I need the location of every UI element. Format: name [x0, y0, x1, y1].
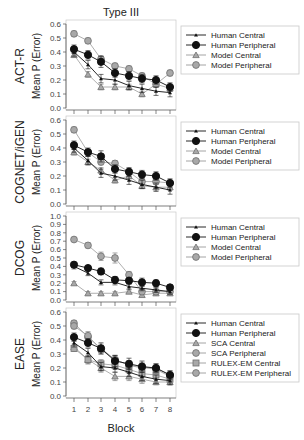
- chart-title: Type III: [103, 6, 139, 18]
- y-tick-label: 1.0: [50, 212, 62, 221]
- data-point-marker: [84, 149, 91, 156]
- x-tick-label: 2: [86, 405, 91, 414]
- series-human-peripheral: [70, 261, 173, 291]
- data-point-marker: [125, 72, 132, 79]
- row-label: ACT-R: [13, 48, 27, 84]
- legend-label: Human Peripheral: [211, 329, 276, 338]
- data-point-marker: [71, 236, 78, 243]
- legend: Human CentralHuman PeripheralSCA Central…: [181, 314, 299, 382]
- x-tick-label: 6: [140, 405, 145, 414]
- data-point-marker: [125, 360, 132, 367]
- x-tick-label: 8: [168, 405, 173, 414]
- y-tick-label: 0.4: [50, 48, 62, 57]
- panel-cognet-igen: 0.00.10.20.30.40.50.6Mean P (Error)COGNE…: [13, 116, 299, 210]
- data-point-marker: [70, 142, 77, 149]
- series-human-peripheral: [70, 333, 173, 379]
- y-tick-label: 0.0: [50, 200, 62, 209]
- legend-label: Human Central: [211, 223, 265, 232]
- y-axis-label: Mean P (Error): [31, 225, 42, 291]
- y-tick-label: 0.4: [50, 336, 62, 345]
- data-point-marker: [152, 364, 159, 371]
- y-tick-label: 0.6: [50, 308, 62, 317]
- data-point-marker: [84, 264, 91, 271]
- data-point-marker: [71, 323, 78, 330]
- y-tick-label: 0.1: [50, 287, 62, 296]
- y-tick-label: 0.1: [50, 378, 62, 387]
- data-point-marker: [98, 253, 105, 260]
- legend: Human CentralHuman PeripheralModel Centr…: [181, 218, 299, 266]
- y-tick-label: 0.6: [50, 116, 62, 125]
- y-axis-label: Mean P (Error): [31, 129, 42, 195]
- data-point-marker: [152, 280, 159, 287]
- data-point-marker: [112, 255, 119, 262]
- data-point-marker: [152, 172, 159, 179]
- data-point-marker: [85, 71, 91, 77]
- legend-marker: [192, 233, 199, 240]
- y-tick-label: 0.7: [50, 237, 62, 246]
- legend-label: RULEX-EM Peripheral: [211, 369, 291, 378]
- legend: Human CentralHuman PeripheralModel Centr…: [181, 26, 299, 74]
- x-tick-label: 5: [127, 405, 132, 414]
- data-point-marker: [111, 69, 118, 76]
- legend-label: Model Peripheral: [211, 61, 272, 70]
- legend-label: Model Peripheral: [211, 253, 272, 262]
- legend-label: Human Central: [211, 127, 265, 136]
- data-point-marker: [125, 168, 132, 175]
- data-point-marker: [85, 37, 92, 44]
- data-point-marker: [138, 363, 145, 370]
- row-label: EASE: [13, 338, 27, 370]
- x-tick-label: 7: [154, 405, 159, 414]
- y-tick-label: 0.0: [50, 392, 62, 401]
- legend-marker: [192, 329, 199, 336]
- data-point-marker: [166, 371, 173, 378]
- data-point-marker: [126, 289, 132, 295]
- data-point-marker: [138, 171, 145, 178]
- y-tick-label: 0.0: [50, 296, 62, 305]
- legend-label: Human Central: [211, 319, 265, 328]
- legend: Human CentralHuman PeripheralModel Centr…: [181, 122, 299, 170]
- legend-marker: [193, 360, 199, 366]
- legend-marker: [193, 62, 200, 69]
- y-tick-label: 0.1: [50, 186, 62, 195]
- y-tick-label: 0.3: [50, 62, 62, 71]
- data-point-marker: [166, 284, 173, 291]
- y-tick-label: 0.2: [50, 76, 62, 85]
- data-point-marker: [70, 261, 77, 268]
- data-point-marker: [167, 70, 174, 77]
- y-tick-label: 0.2: [50, 364, 62, 373]
- y-tick-label: 0.3: [50, 158, 62, 167]
- data-point-marker: [112, 63, 119, 70]
- data-point-marker: [84, 339, 91, 346]
- data-point-marker: [111, 165, 118, 172]
- data-point-marker: [138, 279, 145, 286]
- data-point-marker: [166, 179, 173, 186]
- y-tick-label: 0.2: [50, 279, 62, 288]
- x-axis-label: Block: [108, 422, 135, 434]
- series-human-peripheral: [70, 45, 173, 91]
- y-tick-label: 0.5: [50, 130, 62, 139]
- data-point-marker: [111, 357, 118, 364]
- row-label: DCOG: [13, 240, 27, 276]
- y-tick-label: 0.2: [50, 172, 62, 181]
- legend-label: RULEX-EM Central: [211, 359, 281, 368]
- y-tick-label: 0.3: [50, 350, 62, 359]
- legend-marker: [193, 370, 200, 377]
- data-point-marker: [126, 65, 133, 72]
- y-tick-label: 0.4: [50, 262, 62, 271]
- x-tick-label: 4: [113, 405, 118, 414]
- y-tick-label: 0.1: [50, 90, 62, 99]
- y-tick-label: 0.4: [50, 144, 62, 153]
- legend-marker: [192, 137, 199, 144]
- data-point-marker: [71, 126, 78, 133]
- data-point-marker: [138, 75, 145, 82]
- legend-label: Human Peripheral: [211, 233, 276, 242]
- data-point-marker: [97, 268, 104, 275]
- data-point-marker: [71, 280, 77, 286]
- data-point-marker: [85, 242, 92, 249]
- panel-ease: 0.00.10.20.30.40.50.6Mean P (Error)EASEH…: [13, 308, 299, 434]
- legend-marker: [193, 350, 200, 357]
- legend-label: Model Central: [211, 243, 261, 252]
- data-point-marker: [152, 76, 159, 83]
- y-tick-label: 0.0: [50, 104, 62, 113]
- data-point-marker: [71, 30, 78, 37]
